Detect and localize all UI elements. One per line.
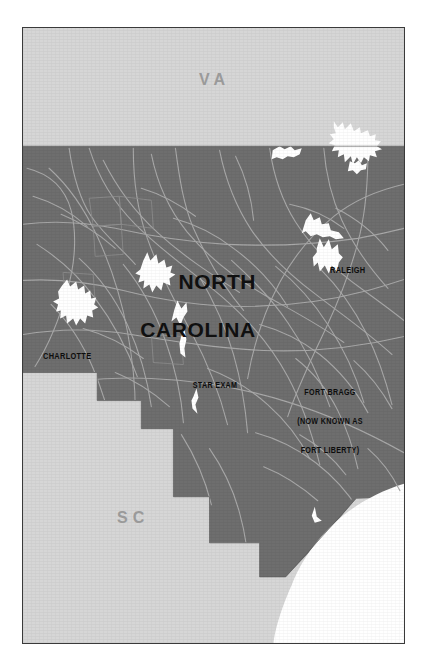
neighbor-label-south-carolina: SC (117, 509, 149, 527)
city-label-charlotte: CHARLOTTE (43, 351, 91, 361)
map-frame: VA SC NORTH CAROLINA RALEIGH CHARLOTTE S… (22, 27, 405, 644)
state-title-line2: CAROLINA (128, 318, 268, 342)
poi-label-star-exam: STAR EXAM (175, 361, 255, 410)
poi-fort-bragg-line2: (NOW KNOWN AS (284, 417, 376, 427)
neighbor-label-virginia: VA (199, 71, 230, 89)
poi-fort-bragg-line1: FORT BRAGG (284, 388, 376, 398)
page-root: VA SC NORTH CAROLINA RALEIGH CHARLOTTE S… (0, 0, 427, 666)
poi-fort-bragg-line3: FORT LIBERTY) (284, 446, 376, 456)
poi-label-fort-bragg: FORT BRAGG (NOW KNOWN AS FORT LIBERTY) (275, 368, 385, 475)
city-label-raleigh: RALEIGH (330, 265, 366, 275)
state-title-line1: NORTH (178, 270, 256, 293)
poi-star-exam-line1: STAR EXAM (181, 381, 248, 391)
